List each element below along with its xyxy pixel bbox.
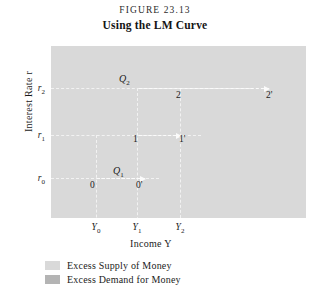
gridline-y1 xyxy=(137,88,138,218)
y-tick-r1: r1 xyxy=(23,130,45,143)
point-label-1-prime: 1' xyxy=(179,134,185,144)
x-axis-label: Income Y xyxy=(130,238,172,249)
legend-item-excess-demand: Excess Demand for Money xyxy=(45,272,181,286)
y-tick-r2: r2 xyxy=(23,83,45,96)
annotation-q2-sub: 2 xyxy=(126,79,130,87)
point-label-1: 1 xyxy=(133,134,138,144)
x-tick-y2-sub: 2 xyxy=(181,227,185,235)
point-label-0-prime: 0' xyxy=(136,180,142,190)
plot-area: 0 0' 1 1' 2 2' Q1 Q2 xyxy=(51,46,306,218)
legend-label-excess-supply: Excess Supply of Money xyxy=(67,260,172,271)
gridline-y0 xyxy=(96,135,97,218)
figure-container: FIGURE 23.13 Using the LM Curve 0 0' 1 1… xyxy=(0,0,310,307)
legend: Excess Supply of Money Excess Demand for… xyxy=(45,258,181,286)
point-label-0: 0 xyxy=(90,180,95,190)
y-tick-r2-sub: 2 xyxy=(42,88,46,96)
y-axis-label: Interest Rate r xyxy=(23,42,34,162)
annotation-q2: Q2 xyxy=(119,73,130,87)
x-tick-y2: Y2 xyxy=(169,222,191,235)
figure-title: Using the LM Curve xyxy=(0,19,310,31)
point-label-2-prime: 2' xyxy=(266,90,272,100)
excess-demand-band xyxy=(51,46,306,86)
annotation-q1: Q1 xyxy=(113,165,124,179)
figure-number: FIGURE 23.13 xyxy=(0,5,310,15)
legend-swatch-excess-supply xyxy=(45,261,60,270)
arrow-q2 xyxy=(139,88,269,89)
arrow-1-to-1prime xyxy=(139,135,181,136)
legend-label-excess-demand: Excess Demand for Money xyxy=(67,274,181,285)
legend-item-excess-supply: Excess Supply of Money xyxy=(45,258,181,272)
y-tick-r0-sub: 0 xyxy=(42,178,46,186)
x-tick-y0: Y0 xyxy=(85,222,107,235)
y-tick-r0: r0 xyxy=(23,173,45,186)
x-tick-y1: Y1 xyxy=(126,222,148,235)
x-tick-y1-sub: 1 xyxy=(138,227,142,235)
y-tick-r1-sub: 1 xyxy=(42,135,46,143)
point-label-2: 2 xyxy=(176,90,181,100)
gridline-y2 xyxy=(180,88,181,218)
annotation-q1-sub: 1 xyxy=(120,171,124,179)
lm-curve-left-boundary xyxy=(51,46,306,52)
legend-swatch-excess-demand xyxy=(45,275,60,284)
x-tick-y0-sub: 0 xyxy=(97,227,101,235)
